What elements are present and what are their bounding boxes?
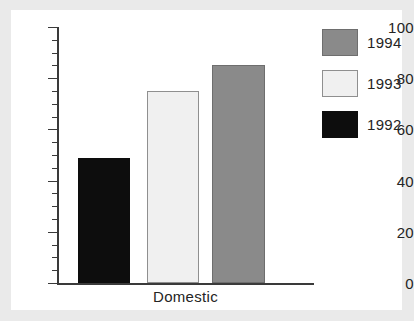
y-tick-minor bbox=[52, 155, 57, 156]
legend-label-1992: 1992 bbox=[367, 116, 402, 133]
legend-label-1993: 1993 bbox=[367, 75, 402, 92]
legend-item-1994[interactable]: 1994 bbox=[322, 27, 402, 57]
y-tick-minor bbox=[52, 91, 57, 92]
x-axis-line bbox=[57, 283, 314, 285]
y-tick-minor bbox=[52, 40, 57, 41]
y-tick-minor bbox=[52, 65, 57, 66]
y-tick-major bbox=[48, 232, 57, 233]
y-tick-minor bbox=[52, 168, 57, 169]
y-tick-minor bbox=[52, 142, 57, 143]
y-tick-minor bbox=[52, 245, 57, 246]
y-tick-label: 0 bbox=[368, 276, 414, 291]
y-tick-major bbox=[48, 283, 57, 284]
legend-item-1993[interactable]: 1993 bbox=[322, 68, 402, 98]
y-tick-minor bbox=[52, 270, 57, 271]
y-tick-label: 40 bbox=[368, 173, 414, 188]
x-axis-label: Domestic bbox=[57, 288, 314, 305]
y-tick-major bbox=[48, 78, 57, 79]
bar-1993 bbox=[147, 91, 199, 283]
figure-container: 020406080100 Domestic 199419931992 bbox=[0, 0, 414, 321]
y-tick-minor bbox=[52, 104, 57, 105]
y-tick-label: 20 bbox=[368, 224, 414, 239]
y-tick-major bbox=[48, 129, 57, 130]
y-axis-line bbox=[57, 27, 59, 284]
bar-1994 bbox=[212, 65, 265, 283]
y-tick-major bbox=[48, 27, 57, 28]
bar-chart: 020406080100 Domestic 199419931992 bbox=[0, 0, 414, 321]
y-tick-major bbox=[48, 181, 57, 182]
legend-swatch-1994 bbox=[322, 29, 358, 56]
y-tick-minor bbox=[52, 193, 57, 194]
legend-swatch-1992 bbox=[322, 111, 358, 138]
y-tick-minor bbox=[52, 117, 57, 118]
legend-swatch-1993 bbox=[322, 70, 358, 97]
y-tick-minor bbox=[52, 219, 57, 220]
y-tick-minor bbox=[52, 53, 57, 54]
y-tick-minor bbox=[52, 206, 57, 207]
y-tick-minor bbox=[52, 257, 57, 258]
bar-1992 bbox=[78, 158, 130, 283]
legend-item-1992[interactable]: 1992 bbox=[322, 109, 402, 139]
legend-label-1994: 1994 bbox=[367, 34, 402, 51]
